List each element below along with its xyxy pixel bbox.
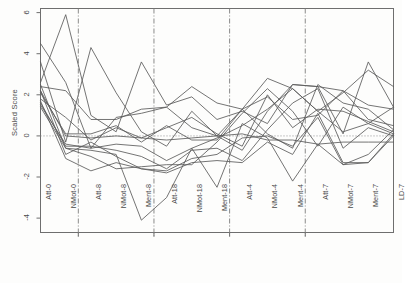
x-tick-label: Att-18	[170, 184, 179, 236]
x-tick-label: Ment-4	[296, 184, 305, 236]
x-tick-label: Ment-7	[371, 184, 380, 236]
x-tick-label: Att-8	[94, 184, 103, 236]
x-tick-label: NMot-0	[69, 184, 78, 236]
x-tick-label: NMot-7	[346, 184, 355, 236]
x-tick-label: NMot-18	[195, 184, 204, 236]
x-tick-label: NMot-4	[270, 184, 279, 236]
x-tick-label: Att-4	[245, 184, 254, 236]
x-tick-label: NMot-8	[119, 184, 128, 236]
x-tick-label: Att-0	[44, 184, 53, 236]
x-tick-label: LD-7	[397, 184, 406, 236]
x-tick-label: Att-7	[321, 184, 330, 236]
x-tick-label: Ment-18	[220, 184, 229, 236]
x-tick-label: Ment-8	[144, 184, 153, 236]
